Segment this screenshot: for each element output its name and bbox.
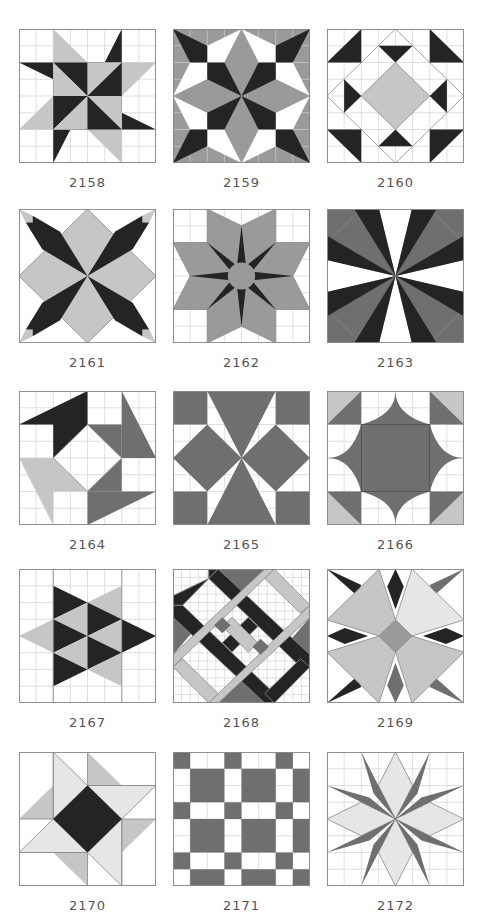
quilt-block-2163 — [327, 209, 464, 343]
quilt-block-2159 — [173, 29, 310, 163]
block-number-label: 2165 — [173, 537, 310, 552]
quilt-block-2169 — [327, 569, 464, 703]
quilt-block-2171 — [173, 752, 310, 886]
quilt-block-2162 — [173, 209, 310, 343]
block-number-label: 2167 — [19, 715, 156, 730]
block-number-label: 2166 — [327, 537, 464, 552]
quilt-block-2158 — [19, 29, 156, 163]
block-number-label: 2170 — [19, 898, 156, 913]
quilt-block-2172 — [327, 752, 464, 886]
block-number-label: 2164 — [19, 537, 156, 552]
quilt-block-2167 — [19, 569, 156, 703]
block-number-label: 2169 — [327, 715, 464, 730]
block-number-label: 2160 — [327, 175, 464, 190]
quilt-block-2165 — [173, 391, 310, 525]
block-number-label: 2163 — [327, 355, 464, 370]
quilt-block-2170 — [19, 752, 156, 886]
quilt-block-2164 — [19, 391, 156, 525]
quilt-block-2161 — [19, 209, 156, 343]
quilt-block-2160 — [327, 29, 464, 163]
block-number-label: 2168 — [173, 715, 310, 730]
block-number-label: 2172 — [327, 898, 464, 913]
block-number-label: 2171 — [173, 898, 310, 913]
block-number-label: 2161 — [19, 355, 156, 370]
quilt-block-2168 — [173, 569, 310, 703]
quilt-block-2166 — [327, 391, 464, 525]
block-number-label: 2159 — [173, 175, 310, 190]
block-number-label: 2158 — [19, 175, 156, 190]
block-number-label: 2162 — [173, 355, 310, 370]
